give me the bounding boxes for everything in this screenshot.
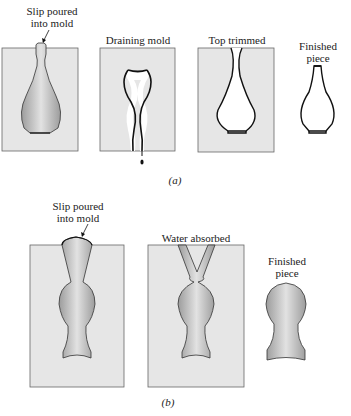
label-a4-line1: Finished [299,40,337,52]
finished-piece-b [266,283,306,360]
label-b1: Slip poured into mold [52,200,103,224]
pour-arrow-a [42,30,49,43]
label-b1-line2: into mold [52,212,103,224]
label-a1: Slip poured into mold [26,5,77,29]
mold-a1-slip-poured [2,43,78,151]
label-b3: Finished piece [268,255,306,279]
label-b1-line1: Slip poured [52,200,103,212]
pour-arrow-b [81,224,88,237]
label-a1-line2: into mold [26,17,77,29]
mold-b1-slip-poured [30,237,124,387]
label-a3: Top trimmed [209,34,266,46]
label-a2: Draining mold [106,34,170,46]
label-a4-line2: piece [299,52,337,64]
label-a4: Finished piece [299,40,337,64]
mold-b2-water-absorbed [148,245,244,387]
caption-a: (a) [169,174,182,186]
caption-b: (b) [162,396,175,408]
label-b3-line2: piece [268,267,306,279]
mold-a2-draining [100,48,175,165]
label-b3-line1: Finished [268,255,306,267]
finished-piece-a [301,66,334,133]
label-b2: Water absorbed [162,232,230,244]
mold-a3-top-trimmed [198,48,274,152]
label-a1-line1: Slip poured [26,5,77,17]
